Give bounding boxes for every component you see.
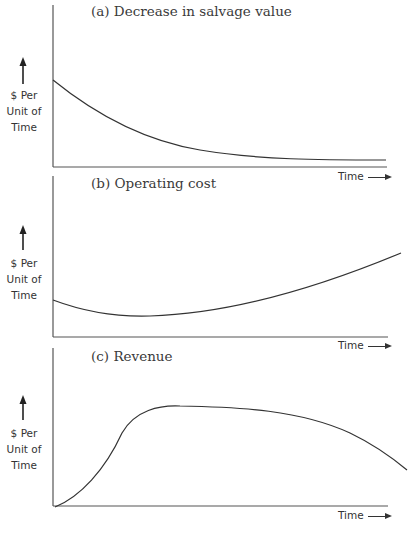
panel-c-axes [53, 348, 388, 506]
panel-b-y-arrow-icon [20, 225, 27, 250]
panel-a-axes [53, 5, 387, 167]
ylabel-line: $ Per [2, 425, 46, 441]
right-arrow-icon [368, 512, 392, 520]
ylabel-line: Unit of [2, 441, 46, 457]
ylabel-line: Time [2, 457, 46, 473]
panel-b-x-axis-label: Time [338, 339, 392, 351]
panel-b-y-axis-label: $ Per Unit of Time [2, 255, 46, 303]
ylabel-line: $ Per [2, 87, 46, 103]
right-arrow-icon [368, 173, 392, 181]
panel-a-y-arrow-icon [20, 57, 27, 84]
panel-c-y-axis-label: $ Per Unit of Time [2, 425, 46, 473]
panel-a-curve [53, 80, 386, 160]
panel-c-title: (c) Revenue [91, 348, 173, 364]
x-axis-label-text: Time [338, 339, 364, 351]
x-axis-label-text: Time [338, 509, 364, 521]
panel-b-curve [53, 253, 401, 316]
panel-a-y-axis-label: $ Per Unit of Time [2, 87, 46, 135]
ylabel-line: $ Per [2, 255, 46, 271]
panel-a-title: (a) Decrease in salvage value [91, 3, 292, 19]
panel-c-curve [55, 406, 407, 507]
figure-canvas [0, 0, 415, 533]
right-arrow-icon [368, 342, 392, 350]
panel-a-x-axis-label: Time [338, 170, 392, 182]
ylabel-line: Time [2, 119, 46, 135]
x-axis-label-text: Time [338, 170, 364, 182]
ylabel-line: Unit of [2, 103, 46, 119]
ylabel-line: Time [2, 287, 46, 303]
panel-c-y-arrow-icon [20, 395, 27, 420]
ylabel-line: Unit of [2, 271, 46, 287]
panel-c-x-axis-label: Time [338, 509, 392, 521]
panel-b-title: (b) Operating cost [91, 175, 216, 191]
